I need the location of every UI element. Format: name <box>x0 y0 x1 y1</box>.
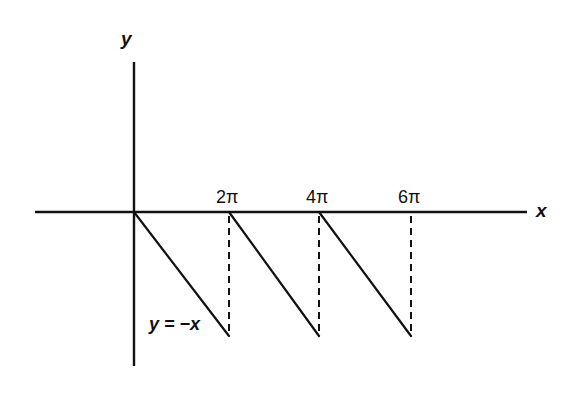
sawtooth-diagram: y x 2π 4π 6π y = −x <box>0 0 579 403</box>
sawtooth-segment-3 <box>319 212 411 336</box>
sawtooth-segment-2 <box>229 212 319 336</box>
curve-label: y = −x <box>148 314 201 334</box>
tick-label-2pi: 2π <box>216 187 238 207</box>
tick-label-4pi: 4π <box>306 187 328 207</box>
tick-label-6pi: 6π <box>398 187 420 207</box>
x-axis-label: x <box>535 200 548 221</box>
y-axis-label: y <box>120 28 133 49</box>
